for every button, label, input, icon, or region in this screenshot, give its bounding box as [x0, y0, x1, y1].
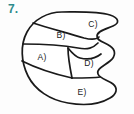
- region-label-e: E): [78, 87, 87, 97]
- region-diagram: A) B) C) D) E): [0, 0, 134, 114]
- outer-outline-shape: [22, 12, 117, 104]
- region-label-b: B): [57, 30, 66, 40]
- figure-screen: 7. A) B) C) D) E): [0, 0, 134, 114]
- region-label-a: A): [38, 52, 47, 62]
- region-label-d: D): [84, 58, 93, 68]
- divider-d-e: [72, 77, 100, 78]
- region-label-c: C): [88, 19, 97, 29]
